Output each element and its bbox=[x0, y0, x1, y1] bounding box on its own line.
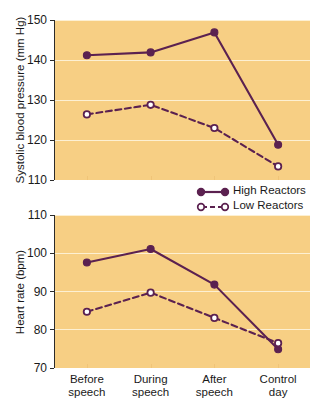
data-point bbox=[275, 141, 282, 148]
data-point bbox=[84, 309, 90, 315]
y-axis-tick-labels-heart-rate: 708090100110 bbox=[0, 200, 47, 414]
x-tick-label-line1: During bbox=[119, 373, 183, 386]
y-tick-label: 120 bbox=[27, 134, 47, 146]
y-tickmark bbox=[50, 180, 54, 181]
chart-panel-heart-rate: Heart rate (bpm) 708090100110 Beforespee… bbox=[0, 200, 315, 414]
data-point bbox=[211, 281, 218, 288]
data-point bbox=[83, 259, 90, 266]
legend-item-high-reactors: High Reactors bbox=[196, 182, 315, 197]
y-tickmark bbox=[50, 368, 54, 369]
legend-swatch-solid-filled-circle bbox=[196, 184, 230, 196]
y-axis-tick-labels-systolic: 110120130140150 bbox=[0, 0, 47, 200]
data-point bbox=[147, 49, 154, 56]
data-point bbox=[275, 340, 281, 346]
x-tick-label-line2: day bbox=[246, 386, 310, 399]
y-tickmark bbox=[50, 20, 54, 21]
data-point bbox=[84, 111, 90, 117]
y-tick-label: 150 bbox=[27, 14, 47, 26]
series-line-low-reactors bbox=[87, 105, 278, 167]
y-tickmark bbox=[50, 140, 54, 141]
x-tick-label-line2: speech bbox=[119, 386, 183, 399]
data-point bbox=[211, 29, 218, 36]
x-tick-label-line1: Before bbox=[55, 373, 119, 386]
x-tick-label-line2: speech bbox=[183, 386, 247, 399]
x-tick-label: Afterspeech bbox=[183, 373, 247, 399]
series-layer-heart-rate bbox=[55, 215, 310, 368]
x-tick-label: Controlday bbox=[246, 373, 310, 399]
y-tick-label: 130 bbox=[27, 94, 47, 106]
chart-panel-systolic-blood-pressure: Systolic blood pressure (mm Hg) 11012013… bbox=[0, 0, 315, 200]
data-point bbox=[147, 102, 153, 108]
x-tick-label-line1: After bbox=[183, 373, 247, 386]
y-tick-label: 110 bbox=[28, 209, 47, 221]
y-tick-label: 100 bbox=[27, 247, 47, 259]
legend-label-high-reactors: High Reactors bbox=[230, 184, 306, 196]
y-tick-label: 90 bbox=[34, 286, 47, 298]
y-tick-label: 140 bbox=[27, 54, 47, 66]
y-tickmark bbox=[50, 60, 54, 61]
x-tick-label: Duringspeech bbox=[119, 373, 183, 399]
y-tick-label: 80 bbox=[34, 324, 47, 336]
x-tick-label-line1: Control bbox=[246, 373, 310, 386]
y-tick-label: 110 bbox=[28, 174, 47, 186]
y-tickmark bbox=[50, 291, 54, 292]
y-tickmark bbox=[50, 215, 54, 216]
data-point bbox=[211, 125, 217, 131]
y-tick-label: 70 bbox=[34, 362, 47, 374]
data-point bbox=[147, 246, 154, 253]
series-layer-systolic bbox=[55, 20, 310, 180]
x-tick-label: Beforespeech bbox=[55, 373, 119, 399]
series-line-high-reactors bbox=[87, 32, 278, 144]
figure: Systolic blood pressure (mm Hg) 11012013… bbox=[0, 0, 315, 414]
data-point bbox=[83, 52, 90, 59]
data-point bbox=[275, 163, 281, 169]
plot-area-systolic bbox=[55, 20, 310, 180]
series-line-low-reactors bbox=[87, 293, 278, 343]
x-tick-label-line2: speech bbox=[55, 386, 119, 399]
y-tickmark bbox=[50, 253, 54, 254]
y-tickmark bbox=[50, 100, 54, 101]
data-point bbox=[147, 289, 153, 295]
y-tickmark bbox=[50, 329, 54, 330]
plot-area-heart-rate bbox=[55, 215, 310, 368]
data-point bbox=[211, 315, 217, 321]
series-line-high-reactors bbox=[87, 249, 278, 349]
